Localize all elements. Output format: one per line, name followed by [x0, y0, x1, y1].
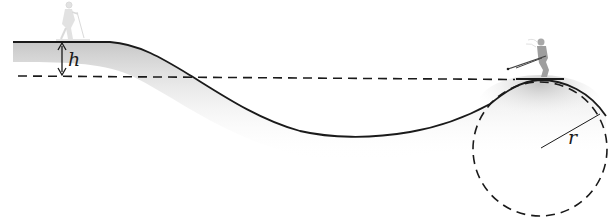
reference-dashed-line	[18, 76, 515, 80]
snow-shading	[13, 42, 606, 160]
height-label: h	[68, 48, 80, 70]
skier-start-icon	[56, 2, 90, 40]
skier-hill-diagram: r h	[0, 0, 613, 222]
skier-top-icon	[507, 39, 564, 80]
